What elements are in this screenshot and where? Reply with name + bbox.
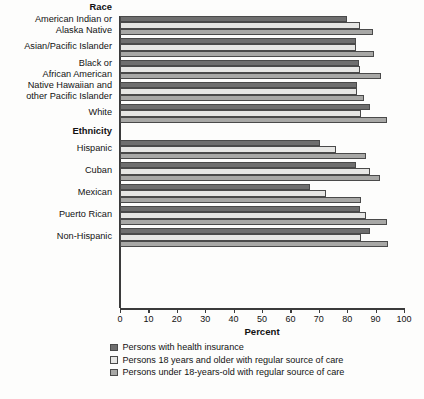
section-header-ethnicity: Ethnicity: [0, 126, 112, 137]
x-tick: [376, 308, 377, 313]
category-label: American Indian or Alaska Native: [0, 14, 112, 35]
x-tick-label: 40: [219, 314, 249, 324]
x-tick-label: 60: [275, 314, 305, 324]
category-label: Hispanic: [0, 143, 112, 154]
plot-area: RaceAmerican Indian or Alaska NativeAsia…: [0, 0, 424, 330]
x-tick: [290, 308, 291, 313]
x-tick-label: 10: [133, 314, 163, 324]
x-tick-label: 80: [332, 314, 362, 324]
bar: [120, 153, 366, 159]
bar: [120, 117, 387, 123]
bar: [120, 73, 381, 79]
bars-layer: [120, 16, 404, 308]
chart-figure: RaceAmerican Indian or Alaska NativeAsia…: [0, 0, 424, 399]
legend-swatch: [110, 344, 118, 352]
x-tick: [177, 308, 178, 313]
category-label: Non-Hispanic: [0, 231, 112, 242]
x-axis-title: Percent: [120, 326, 404, 337]
category-label: Mexican: [0, 187, 112, 198]
bar: [120, 51, 374, 57]
section-header-race: Race: [0, 2, 112, 13]
legend-swatch: [110, 369, 118, 377]
x-tick: [148, 308, 149, 313]
x-tick: [347, 308, 348, 313]
x-tick: [205, 308, 206, 313]
bar: [120, 175, 380, 181]
bar: [120, 241, 388, 247]
legend-label: Persons 18 years and older with regular …: [123, 355, 344, 365]
category-label: Puerto Rican: [0, 209, 112, 220]
category-label: Black or African American: [0, 58, 112, 79]
legend-label: Persons under 18-years-old with regular …: [123, 367, 345, 377]
legend-item: Persons with health insurance: [110, 341, 344, 354]
category-label: White: [0, 107, 112, 118]
x-tick: [404, 308, 405, 313]
x-tick: [120, 308, 121, 313]
bar: [120, 197, 361, 203]
x-tick: [262, 308, 263, 313]
legend-label: Persons with health insurance: [123, 342, 244, 352]
bar: [120, 95, 364, 101]
chart-legend: Persons with health insurancePersons 18 …: [110, 341, 344, 379]
category-label: Asian/Pacific Islander: [0, 41, 112, 52]
x-tick-label: 0: [105, 314, 135, 324]
category-label: Native Hawaiian and other Pacific Island…: [0, 80, 112, 101]
x-tick-label: 70: [304, 314, 334, 324]
x-tick: [319, 308, 320, 313]
legend-swatch: [110, 356, 118, 364]
x-tick-label: 30: [190, 314, 220, 324]
x-tick-label: 90: [361, 314, 391, 324]
legend-item: Persons 18 years and older with regular …: [110, 354, 344, 367]
category-label: Cuban: [0, 165, 112, 176]
bar: [120, 29, 373, 35]
x-tick: [234, 308, 235, 313]
x-tick-label: 50: [247, 314, 277, 324]
bar: [120, 219, 387, 225]
x-tick-label: 100: [389, 314, 419, 324]
legend-item: Persons under 18-years-old with regular …: [110, 366, 344, 379]
x-tick-label: 20: [162, 314, 192, 324]
